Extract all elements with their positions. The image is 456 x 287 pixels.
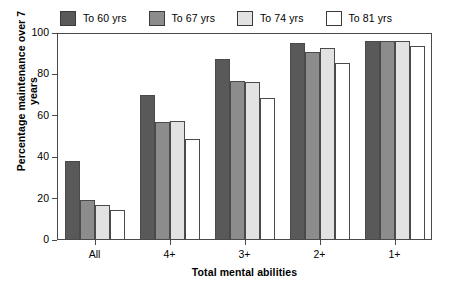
bar — [140, 95, 155, 240]
y-axis-title: Percentage maintenance over 7 years — [15, 1, 39, 181]
bar — [410, 46, 425, 240]
bar-group — [282, 33, 357, 240]
bar — [305, 52, 320, 240]
legend-swatch-icon — [237, 11, 253, 26]
chart-legend: To 60 yrsTo 67 yrsTo 74 yrsTo 81 yrs — [60, 8, 450, 28]
legend-label: To 74 yrs — [260, 12, 304, 24]
legend-swatch-icon — [60, 11, 76, 26]
bar — [155, 122, 170, 240]
bar-group — [132, 33, 207, 240]
bar — [395, 41, 410, 240]
x-axis-tick — [357, 240, 432, 246]
x-tick-mark — [170, 240, 171, 245]
bar — [80, 200, 95, 240]
bar — [380, 41, 395, 240]
bar-group — [57, 33, 132, 240]
legend-label: To 81 yrs — [349, 12, 393, 24]
bar — [110, 210, 125, 240]
bar — [230, 81, 245, 240]
bar — [260, 98, 275, 240]
x-tick-mark — [320, 240, 321, 245]
x-tick-mark — [245, 240, 246, 245]
bar — [215, 59, 230, 240]
x-tick-label: 3+ — [207, 248, 282, 262]
legend-item: To 81 yrs — [326, 11, 393, 26]
bar — [65, 161, 80, 240]
x-axis-title: Total mental abilities — [57, 266, 432, 278]
legend-label: To 60 yrs — [83, 12, 127, 24]
bar-group — [357, 33, 432, 240]
x-axis-tick — [57, 240, 132, 246]
chart-container: To 60 yrsTo 67 yrsTo 74 yrsTo 81 yrs 020… — [0, 0, 456, 287]
legend-item: To 74 yrs — [237, 11, 304, 26]
bar — [185, 139, 200, 240]
bar — [320, 48, 335, 241]
x-axis-tick — [282, 240, 357, 246]
x-tick-mark — [395, 240, 396, 245]
legend-swatch-icon — [149, 11, 165, 26]
bar — [95, 205, 110, 240]
bar — [365, 41, 380, 240]
x-tick-label: 1+ — [357, 248, 432, 262]
x-tick-label: 4+ — [132, 248, 207, 262]
legend-item: To 67 yrs — [149, 11, 216, 26]
bar — [170, 121, 185, 240]
legend-item: To 60 yrs — [60, 11, 127, 26]
x-axis-ticks — [57, 240, 432, 246]
x-tick-label: 2+ — [282, 248, 357, 262]
bar — [290, 43, 305, 240]
x-tick-mark — [95, 240, 96, 245]
legend-label: To 67 yrs — [172, 12, 216, 24]
x-tick-label: All — [57, 248, 132, 262]
legend-swatch-icon — [326, 11, 342, 26]
bar — [245, 82, 260, 240]
bar-groups — [57, 33, 432, 240]
y-axis-title-wrap: Percentage maintenance over 7 years — [0, 33, 57, 240]
x-axis-tick — [132, 240, 207, 246]
x-axis-labels: All4+3+2+1+ — [57, 248, 432, 262]
x-axis-tick — [207, 240, 282, 246]
bar-group — [207, 33, 282, 240]
bar — [335, 63, 350, 240]
